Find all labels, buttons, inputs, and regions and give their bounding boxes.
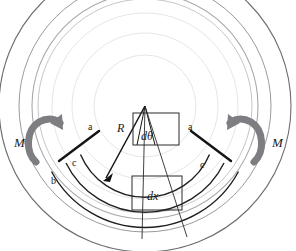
label-fiber-a-right: a bbox=[188, 121, 193, 132]
curved-beam-diagram: M M R dθ dx a a c c b bbox=[0, 0, 296, 251]
label-fiber-a-left: a bbox=[88, 121, 93, 132]
label-moment-right: M bbox=[271, 135, 284, 150]
label-centroid-c-left: c bbox=[72, 157, 77, 168]
label-dtheta: dθ bbox=[141, 129, 153, 143]
diagram-canvas: M M R dθ dx a a c c b bbox=[0, 0, 296, 251]
radius-dimension bbox=[103, 106, 145, 182]
radius-line bbox=[106, 106, 145, 178]
radial-line-right bbox=[191, 131, 231, 161]
radial-line-left bbox=[59, 131, 99, 161]
label-centroid-c-right: c bbox=[200, 159, 205, 170]
label-radius: R bbox=[116, 121, 125, 135]
label-moment-left: M bbox=[13, 135, 26, 150]
label-neutral-b-left: b bbox=[51, 175, 56, 186]
label-dx: dx bbox=[147, 189, 159, 203]
